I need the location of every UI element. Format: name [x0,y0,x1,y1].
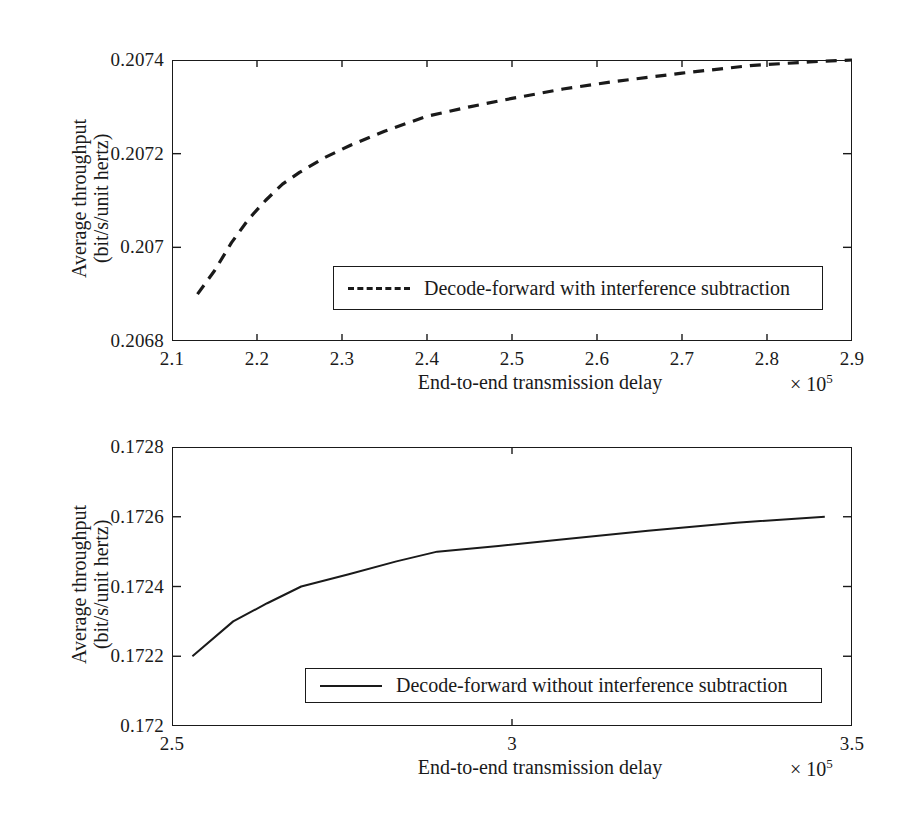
data-series-line [198,60,853,294]
x-axis-exponent-bottom: × 105 [790,756,833,781]
x-tick-label: 2.9 [840,348,864,370]
legend-swatch-dashed-icon [348,287,410,290]
x-axis-exponent-power: 5 [826,371,833,386]
y-tick-label: 0.1724 [111,576,164,598]
y-tick-label: 0.2072 [111,143,164,165]
x-tick-label: 3.5 [840,733,864,755]
legend-top[interactable]: Decode-forward with interference subtrac… [333,266,823,310]
x-tick-label: 2.7 [670,348,694,370]
data-series-line [192,517,824,657]
y-tick-label: 0.172 [120,715,164,737]
x-tick-label: 2.8 [755,348,779,370]
x-axis-exponent-mantissa: × 10 [790,373,826,395]
y-tick-label: 0.1722 [111,645,164,667]
x-tick-label: 3 [507,733,517,755]
y-tick-label: 0.2074 [111,49,164,71]
y-tick-label: 0.2068 [111,330,164,352]
x-tick-label: 2.3 [330,348,354,370]
figure-root: Average throughput (bit/s/unit hertz) De… [0,0,902,826]
x-tick-label: 2.4 [415,348,439,370]
legend-label-top: Decode-forward with interference subtrac… [424,277,790,300]
y-tick-label: 0.207 [120,236,164,258]
chart-panel-top: Average throughput (bit/s/unit hertz) De… [0,0,902,413]
x-axis-exponent-power: 5 [826,756,833,771]
x-axis-exponent-mantissa: × 10 [790,758,826,780]
x-tick-label: 2.2 [245,348,269,370]
y-tick-label: 0.1726 [111,506,164,528]
legend-bottom[interactable]: Decode-forward without interference subt… [305,668,822,703]
x-axis-exponent-top: × 105 [790,371,833,396]
y-tick-label: 0.1728 [111,436,164,458]
legend-swatch-solid-icon [320,685,382,687]
x-tick-label: 2.5 [500,348,524,370]
x-axis-title-bottom: End-to-end transmission delay [89,756,902,779]
chart-panel-bottom: Average throughput (bit/s/unit hertz) De… [0,413,902,826]
legend-label-bottom: Decode-forward without interference subt… [396,674,788,697]
x-tick-label: 2.6 [585,348,609,370]
x-axis-title-top: End-to-end transmission delay [89,371,902,394]
